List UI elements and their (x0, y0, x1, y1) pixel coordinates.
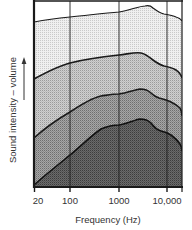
tick-label-10000: 10,000 (152, 195, 181, 206)
x-axis-label: Frequency (Hz) (75, 214, 140, 225)
tick-label-20: 20 (33, 195, 44, 206)
tick-label-1000: 1000 (108, 195, 129, 206)
arrow-up-icon (22, 57, 27, 100)
tick-label-100: 100 (62, 195, 78, 206)
y-axis-label: Sound intensity – volume (7, 57, 18, 163)
